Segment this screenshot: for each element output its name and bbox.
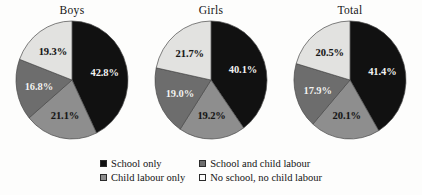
pie-boys-svg bbox=[12, 17, 132, 143]
pie-girls: 40.1%19.2%19.0%21.7% bbox=[151, 17, 271, 143]
pie-title-girls: Girls bbox=[199, 4, 224, 16]
pie-panel-boys: Boys 42.8%21.1%16.8%19.3% bbox=[8, 4, 136, 143]
pie-chart-figure: Boys 42.8%21.1%16.8%19.3% Girls 40.1%19.… bbox=[0, 0, 422, 195]
legend-grid: School only School and child labour Chil… bbox=[100, 157, 322, 184]
legend-item-child-labour-only: Child labour only bbox=[100, 171, 185, 184]
legend-item-school-and-child-labour: School and child labour bbox=[199, 157, 322, 170]
pie-title-boys: Boys bbox=[60, 4, 85, 16]
legend-label-school-only: School only bbox=[111, 157, 161, 170]
legend-label-no-school-no-child-labour: No school, no child labour bbox=[210, 171, 322, 184]
pie-boys: 42.8%21.1%16.8%19.3% bbox=[12, 17, 132, 143]
pie-total: 41.4%20.1%17.9%20.5% bbox=[290, 17, 410, 143]
legend-label-school-and-child-labour: School and child labour bbox=[210, 157, 310, 170]
pie-total-svg bbox=[290, 17, 410, 143]
legend-swatch-child-labour-only bbox=[100, 174, 107, 181]
pie-panels-row: Boys 42.8%21.1%16.8%19.3% Girls 40.1%19.… bbox=[0, 0, 422, 155]
pie-girls-svg bbox=[151, 17, 271, 143]
legend-swatch-school-and-child-labour bbox=[199, 160, 206, 167]
legend-item-school-only: School only bbox=[100, 157, 185, 170]
legend-item-no-school-no-child-labour: No school, no child labour bbox=[199, 171, 322, 184]
legend-swatch-no-school-no-child-labour bbox=[199, 174, 206, 181]
legend-swatch-school-only bbox=[100, 160, 107, 167]
pie-panel-girls: Girls 40.1%19.2%19.0%21.7% bbox=[147, 4, 275, 143]
legend-label-child-labour-only: Child labour only bbox=[111, 171, 185, 184]
pie-panel-total: Total 41.4%20.1%17.9%20.5% bbox=[286, 4, 414, 143]
chart-legend: School only School and child labour Chil… bbox=[0, 157, 422, 184]
pie-title-total: Total bbox=[338, 4, 363, 16]
